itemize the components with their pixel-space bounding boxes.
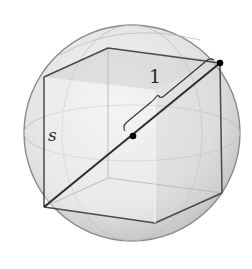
side-label: s: [48, 125, 57, 145]
cube-front-face: [44, 77, 155, 223]
radius-label: 1: [149, 65, 161, 87]
vertex-point: [217, 60, 224, 67]
center-point: [130, 133, 137, 140]
cube-in-sphere-diagram: 1 s: [0, 0, 252, 269]
